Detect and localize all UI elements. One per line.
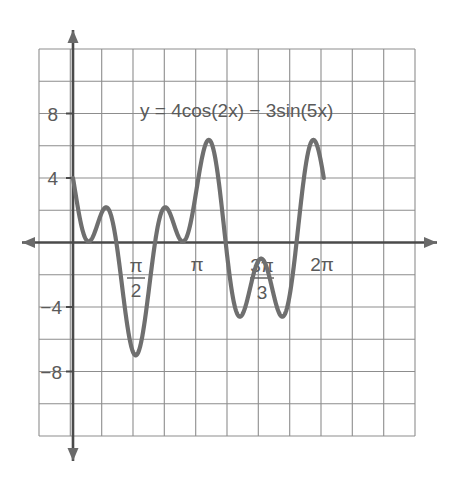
y-tick-label-8: 8 (47, 104, 58, 125)
x-tick-label-2pi: 2π (310, 254, 334, 275)
x-tick-pi-over-2-numerator: π (129, 255, 142, 276)
y-tick-label-neg4: −4 (40, 297, 62, 318)
x-tick-3pi-over-3-denominator: 3 (257, 282, 268, 303)
y-axis (68, 30, 79, 461)
y-axis-down-arrow (68, 448, 79, 461)
x-axis-right-arrow (424, 237, 437, 248)
graph-figure: 8 4 −4 −8 π 2 π 3π 3 2π y = 4cos(2x) − 3… (0, 0, 457, 480)
x-tick-label-pi: π (190, 254, 203, 275)
x-tick-pi-over-2-denominator: 2 (131, 280, 142, 301)
x-axis-left-arrow (22, 237, 35, 248)
function-curve (73, 140, 324, 355)
coordinate-plane: 8 4 −4 −8 π 2 π 3π 3 2π y = 4cos(2x) − 3… (0, 0, 457, 480)
equation-label: y = 4cos(2x) − 3sin(5x) (140, 100, 333, 121)
y-tick-label-4: 4 (47, 168, 58, 189)
y-axis-up-arrow (68, 30, 79, 43)
x-tick-label-pi-over-2: π 2 (127, 255, 145, 301)
y-tick-label-neg8: −8 (40, 362, 62, 383)
